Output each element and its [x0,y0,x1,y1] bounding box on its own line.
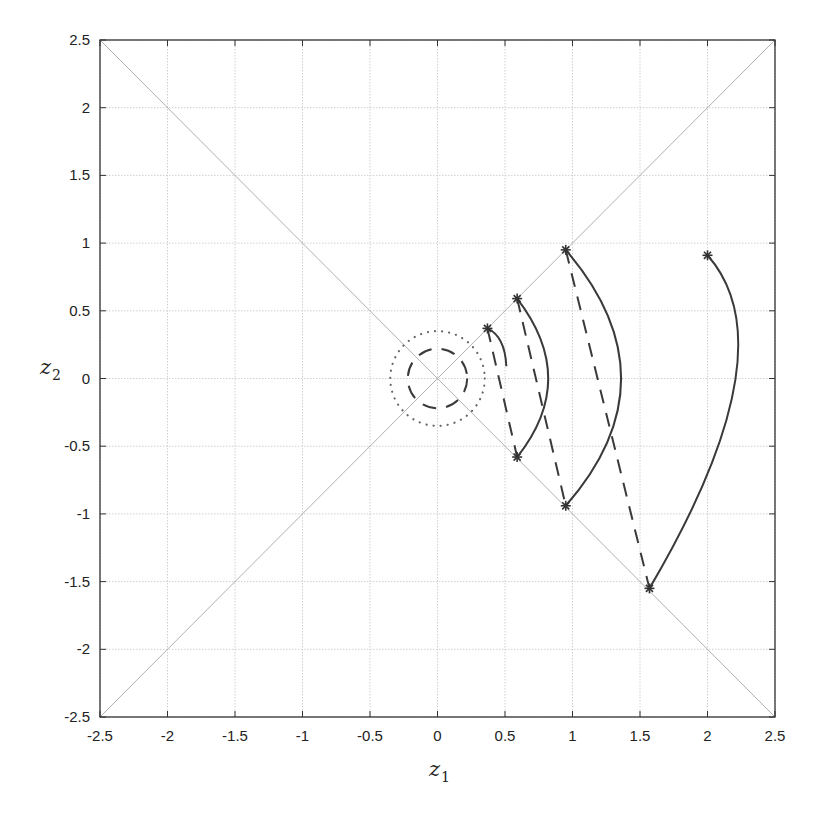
x-tick-label: -0.5 [357,727,383,744]
x-tick-label: -1.5 [222,727,248,744]
y-tick-labels: -2.5-2-1.5-1-0.500.511.522.5 [64,31,90,725]
solid-arc [487,328,506,366]
dashed-segments [487,250,649,589]
y-tick-label: 0 [82,370,90,387]
x-tick-label: 2 [703,727,711,744]
y-axis-label-sub: 2 [52,367,61,383]
x-axis-label-main: z [428,757,441,781]
y-axis-label-main: z [39,355,52,379]
x-tick-label: -2.5 [87,727,113,744]
star-marker [703,250,713,260]
x-tick-label: 1 [568,727,576,744]
x-tick-labels: -2.5-2-1.5-1-0.500.511.522.5 [87,727,785,744]
y-tick-label: -0.5 [64,437,90,454]
y-tick-label: -2.5 [64,708,90,725]
y-tick-label: -2 [77,640,90,657]
x-tick-label: -1 [296,727,309,744]
x-axis-label: z 1 [428,757,450,785]
star-marker [482,323,492,333]
x-tick-label: 1.5 [630,727,651,744]
star-marker [561,501,571,511]
y-tick-label: 1.5 [69,166,90,183]
y-tick-label: -1 [77,505,90,522]
dashed-segment [517,299,566,506]
star-marker [561,245,571,255]
x-tick-label: 0 [433,727,441,744]
y-tick-label: 0.5 [69,302,90,319]
y-tick-label: 2 [82,99,90,116]
solid-arcs [487,250,738,589]
star-marker [512,452,522,462]
solid-arc [566,250,621,506]
dashed-segment [566,250,650,589]
star-marker [644,583,654,593]
x-tick-label: -2 [161,727,174,744]
y-axis-label: z 2 [39,355,61,383]
solid-arc [649,255,738,588]
star-markers [482,245,712,594]
y-tick-label: 1 [82,234,90,251]
x-axis-label-sub: 1 [441,769,450,785]
star-marker [512,294,522,304]
chart-canvas: -2.5-2-1.5-1-0.500.511.522.5 -2.5-2-1.5-… [0,0,828,822]
y-tick-label: 2.5 [69,31,90,48]
x-tick-label: 2.5 [765,727,786,744]
y-tick-label: -1.5 [64,573,90,590]
x-tick-label: 0.5 [495,727,516,744]
